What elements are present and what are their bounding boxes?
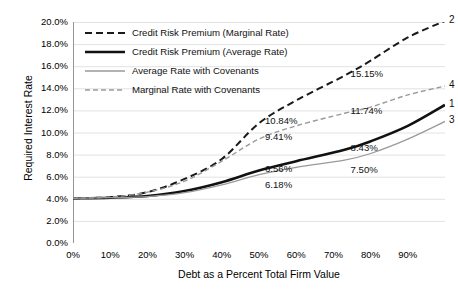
x-axis-title: Debt as a Percent Total Firm Value: [73, 268, 445, 280]
series-marker-2: 2: [449, 14, 455, 25]
y-tick-label: 8.0%: [14, 150, 68, 160]
data-value-label: 10.84%: [265, 115, 298, 126]
y-tick-label: 2.0%: [14, 216, 68, 226]
legend-label: Credit Risk Premium (Average Rate): [132, 46, 288, 57]
legend-label: Marginal Rate with Covenants: [132, 84, 260, 95]
data-value-label: 6.56%: [265, 163, 292, 174]
data-value-label: 6.18%: [265, 179, 292, 190]
data-value-label: 11.74%: [351, 105, 383, 116]
data-value-label: 7.50%: [351, 164, 378, 175]
legend-swatch-icon: [84, 65, 126, 77]
data-value-label: 9.41%: [265, 131, 292, 142]
y-tick-label: 4.0%: [14, 194, 68, 204]
series-marker-4: 4: [449, 79, 455, 90]
data-value-label: 15.15%: [351, 68, 384, 79]
legend-swatch-icon: [84, 84, 126, 96]
legend-item-2[interactable]: Credit Risk Premium (Average Rate): [84, 42, 324, 61]
legend-swatch-icon: [84, 46, 126, 58]
y-tick-label: 12.0%: [14, 105, 68, 115]
series-line-4: [73, 86, 445, 198]
series-marker-3: 3: [449, 114, 455, 125]
x-tick-label: 90%: [385, 249, 431, 260]
y-tick-label: 0.0%: [14, 238, 68, 248]
series-marker-1: 1: [449, 98, 455, 109]
chart-legend: Credit Risk Premium (Marginal Rate)Credi…: [84, 23, 324, 99]
y-tick-label: 14.0%: [14, 83, 68, 93]
y-tick-label: 16.0%: [14, 61, 68, 71]
series-line-1: [73, 105, 445, 198]
legend-item-4[interactable]: Marginal Rate with Covenants: [84, 80, 324, 99]
legend-item-1[interactable]: Credit Risk Premium (Marginal Rate): [84, 23, 324, 42]
y-tick-label: 18.0%: [14, 39, 68, 49]
legend-label: Credit Risk Premium (Marginal Rate): [132, 27, 289, 38]
y-tick-label: 10.0%: [14, 128, 68, 138]
y-tick-label: 20.0%: [14, 17, 68, 27]
credit-risk-premium-chart: Required Interest Rate 0.0%2.0%4.0%6.0%8…: [0, 0, 458, 291]
legend-swatch-icon: [84, 27, 126, 39]
y-axis-tick-labels: 0.0%2.0%4.0%6.0%8.0%10.0%12.0%14.0%16.0%…: [8, 0, 68, 291]
legend-label: Average Rate with Covenants: [132, 65, 259, 76]
legend-item-3[interactable]: Average Rate with Covenants: [84, 61, 324, 80]
data-value-label: 8.43%: [351, 142, 378, 153]
y-tick-label: 6.0%: [14, 172, 68, 182]
